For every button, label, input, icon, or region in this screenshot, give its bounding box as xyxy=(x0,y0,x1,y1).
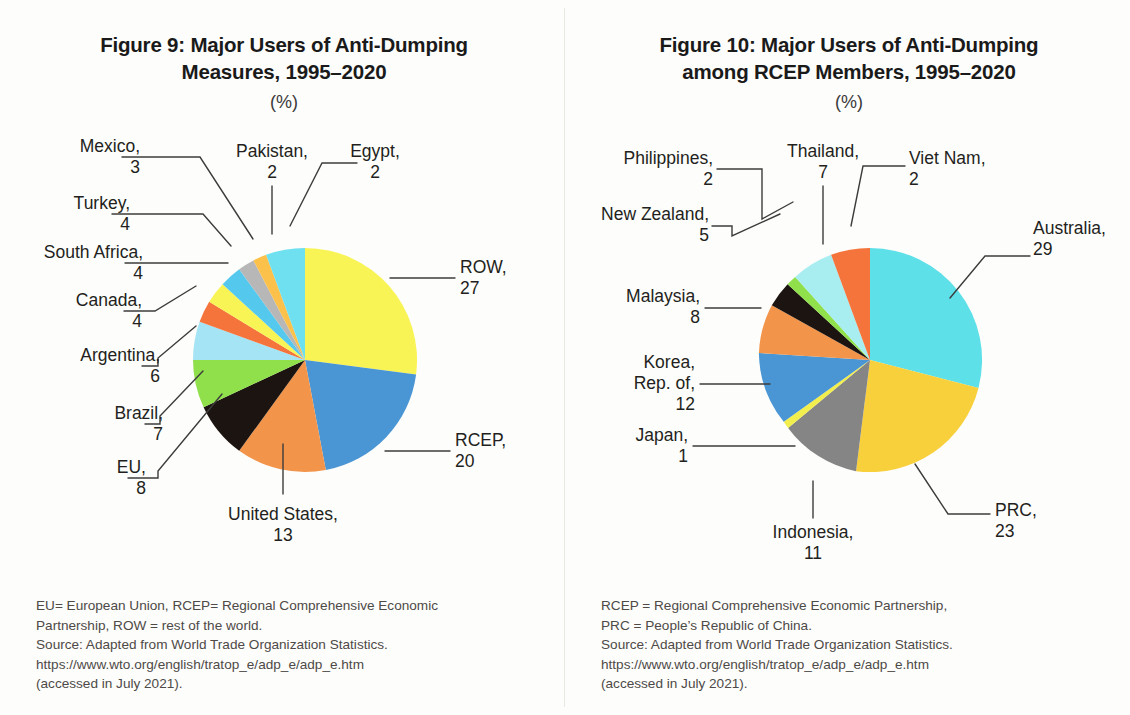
label-row-name: ROW, xyxy=(460,257,507,277)
label-egypt-name: Egypt, xyxy=(350,141,400,161)
label-australia: Australia, 29 xyxy=(1033,218,1130,260)
label-rcep-name: RCEP, xyxy=(455,430,506,450)
label-malaysia: Malaysia, 8 xyxy=(545,286,700,328)
label-korea-name-line2: Rep. of, xyxy=(634,373,695,393)
label-thailand-name: Thailand, xyxy=(787,141,859,161)
label-argentina-name: Argentina, xyxy=(80,345,160,365)
leader-prc xyxy=(915,464,990,514)
label-turkey: Turkey, 4 xyxy=(0,193,130,235)
label-united-states-value: 13 xyxy=(273,525,292,545)
slice-row[interactable] xyxy=(305,248,417,375)
label-viet-nam-value: 2 xyxy=(909,169,919,189)
label-pakistan-value: 2 xyxy=(267,162,277,182)
label-australia-value: 29 xyxy=(1033,239,1052,259)
label-malaysia-name: Malaysia, xyxy=(626,286,700,306)
label-canada-name: Canada, xyxy=(76,290,142,310)
label-united-states: United States, 13 xyxy=(183,504,383,546)
label-brazil: Brazil, 7 xyxy=(0,403,163,445)
label-eu-value: 8 xyxy=(136,478,146,498)
label-canada-value: 4 xyxy=(132,311,142,331)
label-new-zealand: New Zealand, 5 xyxy=(537,204,709,246)
label-south-africa: South Africa, 4 xyxy=(0,242,143,284)
label-viet-nam-name: Viet Nam, xyxy=(909,148,986,168)
figure-10-chart: Philippines, 2 New Zealand, 5 Malaysia, … xyxy=(565,126,1130,576)
label-philippines-name: Philippines, xyxy=(624,148,714,168)
figure-10-panel: Figure 10: Major Users of Anti-Dumping a… xyxy=(565,0,1130,715)
label-thailand-value: 7 xyxy=(818,162,828,182)
figure-10-unit: (%) xyxy=(599,92,1099,113)
label-pakistan-name: Pakistan, xyxy=(236,141,308,161)
figure-10-title-line2: among RCEP Members, 1995–2020 xyxy=(682,60,1015,83)
label-japan-name: Japan, xyxy=(635,425,688,445)
label-turkey-name: Turkey, xyxy=(74,193,130,213)
label-indonesia-value: 11 xyxy=(804,543,822,563)
figure-9-footnote: EU= European Union, RCEP= Regional Compr… xyxy=(36,596,548,694)
label-korea-name-line1: Korea, xyxy=(643,352,695,372)
label-malaysia-value: 8 xyxy=(690,307,700,327)
label-korea-value: 12 xyxy=(676,394,695,414)
label-egypt: Egypt, 2 xyxy=(320,141,430,183)
label-argentina: Argentina, 6 xyxy=(0,345,160,387)
label-philippines: Philippines, 2 xyxy=(545,148,713,190)
figure-9-footnote-line-4[interactable]: https://www.wto.org/english/tratop_e/adp… xyxy=(36,655,548,675)
label-south-africa-name: South Africa, xyxy=(44,242,143,262)
label-south-africa-value: 4 xyxy=(133,263,143,283)
figure-9-title-line2: Measures, 1995–2020 xyxy=(182,60,387,83)
figure-10-footnote-line-5: (accessed in July 2021). xyxy=(601,674,1113,694)
figure-10-footnote-line-1: RCEP = Regional Comprehensive Economic P… xyxy=(601,596,1113,616)
label-argentina-value: 6 xyxy=(150,366,160,386)
label-brazil-value: 7 xyxy=(153,424,163,444)
figure-9-footnote-line-1: EU= European Union, RCEP= Regional Compr… xyxy=(36,596,548,616)
label-japan: Japan, 1 xyxy=(545,425,688,467)
label-australia-name: Australia, xyxy=(1033,218,1106,238)
label-brazil-name: Brazil, xyxy=(114,403,163,423)
label-indonesia: Indonesia, 11 xyxy=(723,522,903,564)
label-new-zealand-name: New Zealand, xyxy=(601,204,709,224)
figure-10-title-line1: Figure 10: Major Users of Anti-Dumping xyxy=(660,33,1039,56)
label-united-states-name: United States, xyxy=(228,504,338,524)
figure-9-footnote-line-2: Partnership, ROW = rest of the world. xyxy=(36,616,548,636)
label-mexico: Mexico, 3 xyxy=(0,136,140,178)
label-eu-name: EU, xyxy=(117,457,146,477)
label-japan-value: 1 xyxy=(678,446,688,466)
figures-page: Figure 9: Major Users of Anti-Dumping Me… xyxy=(0,0,1130,715)
figure-9-panel: Figure 9: Major Users of Anti-Dumping Me… xyxy=(0,0,565,715)
figure-9-chart: Mexico, 3 Turkey, 4 South Africa, 4 Cana… xyxy=(0,126,565,576)
figure-10-footnote-line-4[interactable]: https://www.wto.org/english/tratop_e/adp… xyxy=(601,655,1113,675)
label-mexico-value: 3 xyxy=(130,157,140,177)
label-prc-name: PRC, xyxy=(995,500,1037,520)
label-korea: Korea, Rep. of, 12 xyxy=(545,352,695,415)
label-rcep-value: 20 xyxy=(455,451,474,471)
figure-10-footnote-line-3: Source: Adapted from World Trade Organiz… xyxy=(601,635,1113,655)
label-eu: EU, 8 xyxy=(0,457,146,499)
figure-10-footnote: RCEP = Regional Comprehensive Economic P… xyxy=(601,596,1113,694)
figure-9-title: Figure 9: Major Users of Anti-Dumping Me… xyxy=(34,31,534,85)
label-egypt-value: 2 xyxy=(370,162,380,182)
figure-10-title: Figure 10: Major Users of Anti-Dumping a… xyxy=(599,31,1099,85)
figure-9-unit: (%) xyxy=(34,92,534,113)
figure-10-pie-slices xyxy=(759,248,982,472)
label-indonesia-name: Indonesia, xyxy=(773,522,854,542)
label-row-value: 27 xyxy=(460,278,479,298)
label-prc: PRC, 23 xyxy=(995,500,1105,542)
figure-9-footnote-line-3: Source: Adapted from World Trade Organiz… xyxy=(36,635,548,655)
leader-australia xyxy=(950,256,1030,298)
figure-10-footnote-line-2: PRC = People’s Republic of China. xyxy=(601,616,1113,636)
label-mexico-name: Mexico, xyxy=(80,136,140,156)
label-viet-nam: Viet Nam, 2 xyxy=(909,148,1049,190)
figure-9-pie-slices xyxy=(193,248,417,472)
label-turkey-value: 4 xyxy=(120,214,130,234)
figure-9-title-line1: Figure 9: Major Users of Anti-Dumping xyxy=(100,33,468,56)
label-prc-value: 23 xyxy=(995,521,1014,541)
label-thailand: Thailand, 7 xyxy=(753,141,893,183)
label-canada: Canada, 4 xyxy=(0,290,142,332)
figure-9-footnote-line-5: (accessed in July 2021). xyxy=(36,674,548,694)
leader-new-zealand xyxy=(712,214,780,236)
label-new-zealand-value: 5 xyxy=(699,225,709,245)
label-philippines-value: 2 xyxy=(703,169,713,189)
